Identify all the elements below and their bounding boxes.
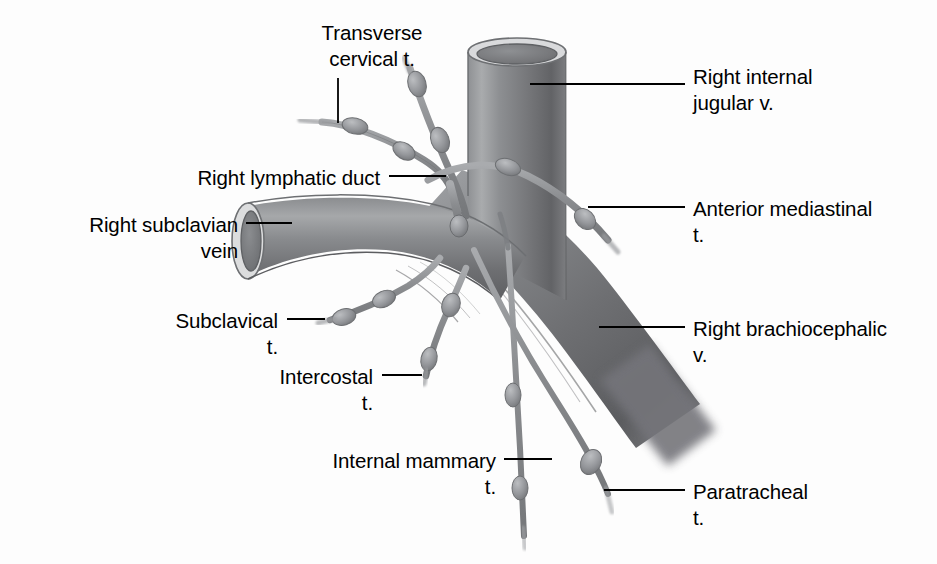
anatomy-figure-page: Transverse cervical t. Right internal ju…: [0, 0, 937, 564]
label-transverse-cervical: Transverse cervical t.: [277, 20, 467, 72]
label-intercostal: Intercostal t.: [248, 364, 373, 416]
label-right-internal-jugular: Right internal jugular v.: [693, 64, 923, 116]
label-right-lymphatic-duct: Right lymphatic duct: [165, 165, 380, 191]
intercostal-trunk: [419, 268, 466, 384]
label-right-brachiocephalic: Right brachiocephalic v.: [693, 316, 937, 368]
label-paratracheal: Paratracheal t.: [693, 479, 868, 531]
label-subclavical: Subclavical t.: [148, 308, 278, 360]
label-right-subclavian-vein: Right subclavian vein: [38, 212, 238, 264]
upper-lymphatic-chain: [404, 58, 466, 216]
leader-lines: [246, 78, 685, 490]
label-internal-mammary: Internal mammary t.: [281, 448, 496, 500]
subclavical-trunk: [318, 258, 440, 328]
label-anterior-mediastinal: Anterior mediastinal t.: [693, 196, 933, 248]
